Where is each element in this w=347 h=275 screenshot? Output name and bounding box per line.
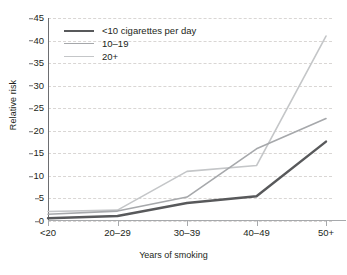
x-axis-tick-mark bbox=[326, 221, 327, 226]
y-axis-tick-mark bbox=[29, 108, 33, 109]
y-axis-tick-mark bbox=[29, 63, 33, 64]
legend-item[interactable]: 10–19 bbox=[64, 37, 234, 50]
y-axis-tick-label: 25 bbox=[33, 103, 44, 113]
y-axis-tick-label: 0 bbox=[39, 216, 44, 226]
x-axis-title-text: Years of smoking bbox=[139, 250, 208, 260]
x-axis-tick-mark bbox=[48, 221, 49, 226]
y-axis-tick-label: 35 bbox=[33, 58, 44, 68]
x-axis-tick-label: 40–49 bbox=[243, 228, 269, 238]
y-axis-tick-mark bbox=[29, 153, 33, 154]
y-axis-tick-mark bbox=[29, 18, 33, 19]
legend-label: 10–19 bbox=[102, 39, 128, 49]
x-axis-tick-labels: <2020–2930–3940–4950+ bbox=[0, 228, 347, 242]
series-line bbox=[48, 142, 326, 219]
x-axis-tick-mark bbox=[187, 221, 188, 226]
legend-swatch-icon bbox=[64, 30, 94, 32]
y-axis-tick-label: 40 bbox=[33, 36, 44, 46]
y-axis-tick-mark bbox=[29, 41, 33, 42]
legend-item[interactable]: <10 cigarettes per day bbox=[64, 24, 234, 37]
y-axis-tick-label: 15 bbox=[33, 149, 44, 159]
legend-label: <10 cigarettes per day bbox=[102, 26, 196, 36]
series-line bbox=[48, 119, 326, 215]
y-axis-tick-mark bbox=[29, 86, 33, 87]
legend-swatch-icon bbox=[64, 56, 94, 57]
y-axis-tick-mark bbox=[29, 131, 33, 132]
y-axis-title-text: Relative risk bbox=[8, 80, 18, 130]
x-axis-tick-label: 30–39 bbox=[174, 228, 200, 238]
legend-item[interactable]: 20+ bbox=[64, 50, 234, 63]
y-axis-tick-label: 30 bbox=[33, 81, 44, 91]
legend-label: 20+ bbox=[102, 52, 118, 62]
y-axis-tick-label: 45 bbox=[33, 13, 44, 23]
y-axis-tick-mark bbox=[35, 198, 39, 199]
legend-swatch-icon bbox=[64, 43, 94, 44]
y-axis-tick-label: 20 bbox=[33, 126, 44, 136]
x-axis-tick-label: 20–29 bbox=[104, 228, 130, 238]
x-axis-tick-mark bbox=[118, 221, 119, 226]
x-axis-tick-label: 50+ bbox=[318, 228, 334, 238]
x-axis-tick-label: <20 bbox=[40, 228, 56, 238]
legend: <10 cigarettes per day10–1920+ bbox=[64, 24, 234, 63]
y-axis-tick-label: 5 bbox=[39, 194, 44, 204]
x-axis-tick-mark bbox=[257, 221, 258, 226]
y-axis-tick-mark bbox=[35, 221, 39, 222]
x-axis-title: Years of smoking bbox=[0, 250, 347, 260]
chart-figure: Relative risk 051015202530354045 <2020–2… bbox=[0, 0, 347, 275]
y-axis-tick-mark bbox=[29, 176, 33, 177]
y-axis-tick-labels: 051015202530354045 bbox=[20, 18, 44, 221]
y-axis-tick-label: 10 bbox=[33, 171, 44, 181]
